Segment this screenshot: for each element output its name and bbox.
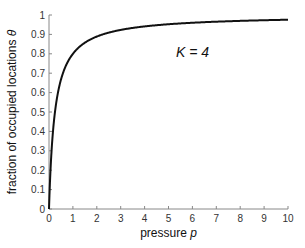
x-tick-label: 2 [94,213,100,224]
x-tick-label: 7 [214,213,220,224]
x-tick-label: 3 [118,213,124,224]
x-tick-label: 8 [237,213,243,224]
y-axis: 00.10.20.30.40.50.60.70.80.91 [31,10,52,215]
x-tick-label: 0 [46,213,52,224]
y-tick-label: 0.5 [31,107,45,118]
y-tick-label: 0.2 [31,165,45,176]
y-tick-label: 0.4 [31,126,45,137]
data-line-series [49,20,288,209]
x-axis: 012345678910 [46,206,294,224]
annotation-k-value: K = 4 [176,44,209,60]
y-tick-label: 1 [39,10,45,21]
x-tick-label: 6 [190,213,196,224]
y-tick-label: 0.9 [31,29,45,40]
chart: 00.10.20.30.40.50.60.70.80.91 0123456789… [0,0,305,248]
x-tick-label: 5 [166,213,172,224]
y-tick-label: 0.3 [31,145,45,156]
y-tick-label: 0.6 [31,87,45,98]
x-tick-label: 4 [142,213,148,224]
x-tick-label: 10 [282,213,294,224]
x-tick-label: 1 [70,213,76,224]
y-tick-label: 0.1 [31,184,45,195]
y-axis-label: fraction of occupied locations θ [5,29,19,194]
x-tick-label: 9 [261,213,267,224]
y-tick-label: 0 [39,204,45,215]
x-axis-label: pressure p [140,226,197,240]
y-tick-label: 0.8 [31,48,45,59]
y-tick-label: 0.7 [31,68,45,79]
